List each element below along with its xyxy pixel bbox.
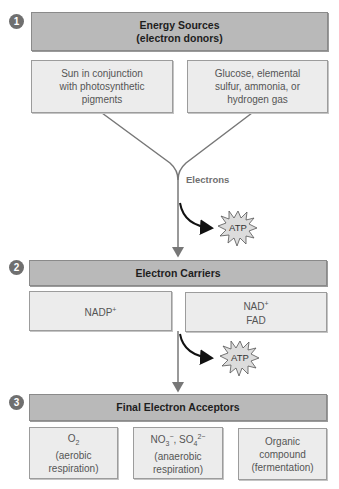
fad-text: FAD <box>246 314 265 327</box>
text-line: Sun in conjunction <box>61 67 143 80</box>
text-line: (fermentation) <box>251 461 313 474</box>
formula: O2 <box>68 432 80 449</box>
energy-sources-header: Energy Sources (electron donors) <box>31 12 328 51</box>
header-title: Final Electron Acceptors <box>116 401 239 414</box>
step-1-badge: 1 <box>9 14 24 29</box>
nadp-text: NADP+ <box>85 303 117 319</box>
electrons-label: Electrons <box>186 174 229 185</box>
text-line: with photosynthetic <box>59 80 144 93</box>
final-acceptors-header: Final Electron Acceptors <box>29 394 327 421</box>
energy-source-sun: Sun in conjunction with photosynthetic p… <box>31 60 173 113</box>
electron-carriers-header: Electron Carriers <box>29 260 327 286</box>
step-2-badge: 2 <box>9 260 24 275</box>
atp-label-1: ATP <box>223 222 253 233</box>
acceptor-inorganic: NO3−, SO42− (anaerobic respiration) <box>133 427 223 479</box>
atp-arrow-1 <box>180 203 212 228</box>
text-line: compound <box>259 448 306 461</box>
electron-line-right <box>178 113 252 180</box>
nad-text: NAD+ <box>243 297 268 313</box>
text-line: Organic <box>265 435 300 448</box>
atp-arrow-2 <box>180 334 212 358</box>
text-line: (aerobic <box>55 449 91 462</box>
formula: NO3−, SO42− <box>151 430 206 450</box>
step-3-badge: 3 <box>9 395 24 410</box>
carrier-nadp: NADP+ <box>29 291 172 331</box>
energy-source-chemical: Glucose, elemental sulfur, ammonia, or h… <box>187 60 328 113</box>
text-line: (anaerobic <box>154 450 201 463</box>
acceptor-oxygen: O2 (aerobic respiration) <box>29 427 118 479</box>
acceptor-organic: Organic compound (fermentation) <box>238 428 327 480</box>
header-title: Energy Sources <box>140 19 220 32</box>
text-line: respiration) <box>48 462 98 475</box>
text-line: sulfur, ammonia, or <box>215 80 300 93</box>
electron-line-left <box>102 113 178 180</box>
text-line: respiration) <box>153 463 203 476</box>
header-title: Electron Carriers <box>135 267 220 280</box>
text-line: hydrogen gas <box>227 93 288 106</box>
carrier-nad-fad: NAD+ FAD <box>185 292 327 332</box>
text-line: pigments <box>82 93 123 106</box>
text-line: Glucose, elemental <box>215 67 301 80</box>
header-subtitle: (electron donors) <box>136 32 222 45</box>
atp-label-2: ATP <box>225 352 255 363</box>
